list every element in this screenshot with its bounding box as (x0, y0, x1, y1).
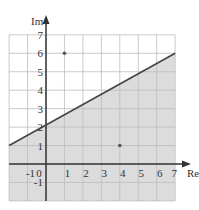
data-point (118, 144, 122, 148)
y-axis-arrow-icon (43, 15, 50, 24)
x-tick-label: 4 (120, 167, 126, 179)
y-tick-label: 4 (38, 84, 44, 96)
y-tick-label: 2 (38, 121, 44, 133)
x-axis-label: Re (187, 167, 199, 179)
y-tick-label: 1 (38, 140, 44, 152)
complex-plane-chart: -101234567 -11234567 Re Im (0, 0, 199, 210)
y-tick-label: 6 (38, 47, 44, 59)
x-tick-label: 1 (65, 167, 71, 179)
y-tick-label: 5 (38, 66, 44, 78)
y-tick-label: 3 (38, 103, 44, 115)
x-tick-label: 3 (102, 167, 108, 179)
x-tick-label: 2 (83, 167, 89, 179)
y-tick-label: -1 (34, 176, 43, 188)
y-axis-label: Im (31, 15, 44, 27)
data-point (63, 52, 67, 56)
x-tick-label: 6 (157, 167, 163, 179)
x-tick-label: 7 (171, 167, 177, 179)
x-tick-label: 5 (139, 167, 145, 179)
y-tick-label: 7 (38, 29, 44, 41)
